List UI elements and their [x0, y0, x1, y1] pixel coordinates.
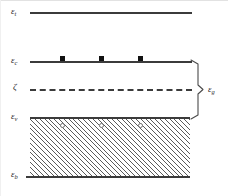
fermi-level-label: ζ: [13, 83, 17, 92]
figure-left-border: [0, 0, 1, 196]
energy-level-line-conduction: [30, 61, 192, 63]
band-gap-label: εg: [208, 85, 215, 95]
figure-top-border: [0, 0, 228, 1]
hole-marker: [99, 123, 104, 128]
valence-band-fill: [30, 119, 190, 177]
energy-level-line-top: [30, 12, 192, 14]
electron-marker: [99, 56, 104, 61]
electron-marker: [138, 56, 143, 61]
energy-level-label-valence: εv: [11, 112, 17, 122]
energy-level-label-top: εt: [11, 7, 16, 17]
energy-level-label-bottom: εb: [11, 170, 18, 180]
hole-marker: [138, 123, 143, 128]
fermi-level-line: [30, 89, 192, 91]
energy-level-line-bottom: [26, 176, 190, 178]
band-diagram-figure: εt εc ζ εv εb εg: [0, 0, 228, 196]
energy-level-line-valence: [30, 117, 190, 119]
electron-marker: [60, 56, 65, 61]
hole-marker: [60, 123, 65, 128]
energy-level-label-conduction: εc: [11, 56, 17, 66]
